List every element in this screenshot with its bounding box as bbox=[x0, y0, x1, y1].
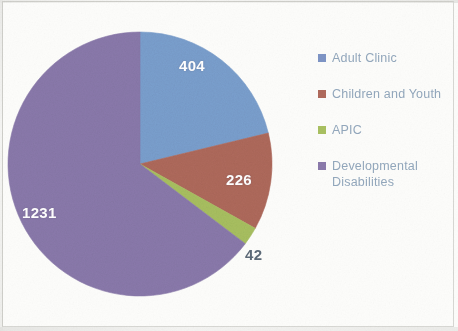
pie-chart-screenshot: 404 226 42 1231 Adult Clinic Children an… bbox=[0, 0, 458, 331]
legend-item-apic[interactable]: APIC bbox=[318, 122, 454, 138]
legend-swatch-icon-apic bbox=[318, 126, 326, 134]
legend-label-apic: APIC bbox=[332, 122, 362, 138]
legend-item-developmental-disabilities[interactable]: Developmental Disabilities bbox=[318, 158, 454, 190]
chart-legend: Adult Clinic Children and Youth APIC Dev… bbox=[318, 50, 454, 210]
legend-label-developmental-disabilities: Developmental Disabilities bbox=[332, 158, 454, 190]
legend-label-children-and-youth: Children and Youth bbox=[332, 86, 441, 102]
slice-data-label-apic: 42 bbox=[245, 246, 262, 263]
slice-data-label-adult-clinic: 404 bbox=[179, 57, 205, 74]
slice-data-label-developmental-disabilities: 1231 bbox=[22, 204, 57, 221]
legend-item-adult-clinic[interactable]: Adult Clinic bbox=[318, 50, 454, 66]
legend-swatch-icon-children-and-youth bbox=[318, 90, 326, 98]
legend-label-adult-clinic: Adult Clinic bbox=[332, 50, 397, 66]
legend-item-children-and-youth[interactable]: Children and Youth bbox=[318, 86, 454, 102]
legend-swatch-icon-adult-clinic bbox=[318, 54, 326, 62]
pie-slice-group bbox=[8, 32, 272, 296]
plot-area: 404 226 42 1231 bbox=[0, 0, 320, 331]
pie-chart bbox=[0, 0, 320, 331]
legend-swatch-icon-developmental-disabilities bbox=[318, 162, 326, 170]
slice-data-label-children-and-youth: 226 bbox=[226, 171, 252, 188]
